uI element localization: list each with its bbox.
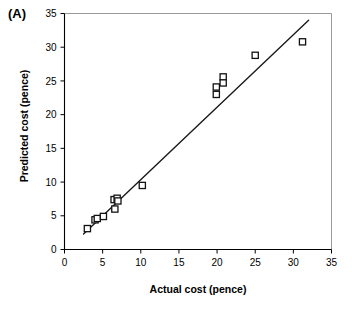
y-tick-label: 10 <box>45 177 57 188</box>
data-point-marker <box>115 198 121 204</box>
y-tick-label: 5 <box>51 210 57 221</box>
x-tick-label: 20 <box>212 257 224 268</box>
x-tick-label: 25 <box>250 257 262 268</box>
data-point-marker <box>84 225 90 231</box>
figure-panel-a: (A) Predicted cost (pence) Actual cost (… <box>0 0 352 313</box>
data-point-marker <box>94 215 100 221</box>
data-point-marker <box>252 52 258 58</box>
x-tick-label: 5 <box>100 257 106 268</box>
y-tick-label: 30 <box>45 42 57 53</box>
data-point-marker <box>100 213 106 219</box>
x-tick-label: 30 <box>288 257 300 268</box>
data-point-marker <box>213 91 219 97</box>
x-tick-label: 35 <box>326 257 338 268</box>
x-tick-label: 10 <box>135 257 147 268</box>
y-tick-label: 25 <box>45 76 57 87</box>
y-tick-label: 20 <box>45 109 57 120</box>
data-point-marker <box>139 182 145 188</box>
data-point-marker <box>213 84 219 90</box>
y-tick-label: 15 <box>45 143 57 154</box>
scatter-plot: 0510152025303505101520253035 <box>0 0 352 313</box>
y-tick-label: 35 <box>45 8 57 19</box>
data-point-marker <box>220 80 226 86</box>
x-tick-label: 0 <box>62 257 68 268</box>
y-tick-label: 0 <box>51 244 57 255</box>
data-point-marker <box>299 39 305 45</box>
data-point-marker <box>220 74 226 80</box>
x-tick-label: 15 <box>173 257 185 268</box>
data-point-marker <box>112 206 118 212</box>
